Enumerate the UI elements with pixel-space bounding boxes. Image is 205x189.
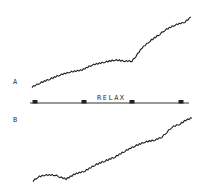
event-marker	[82, 100, 87, 104]
panel-label-a: A	[13, 78, 17, 86]
trace-a-line	[32, 17, 191, 88]
trace-b-line	[33, 118, 192, 182]
event-marker	[179, 100, 184, 104]
relax-annotation: RELAX	[97, 94, 126, 102]
panel-label-b: B	[13, 116, 17, 124]
event-marker	[33, 100, 38, 104]
event-marker	[130, 100, 135, 104]
